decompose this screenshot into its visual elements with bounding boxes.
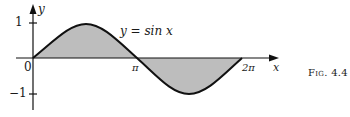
x-tick-label-pi: π <box>132 62 139 73</box>
x-axis-label: x <box>273 61 279 74</box>
y-axis-arrow-icon <box>30 4 37 14</box>
figure-caption: Fig. 4.4 <box>308 67 348 78</box>
y-tick-label-minus-1: −1 <box>9 86 27 100</box>
y-tick-label-1: 1 <box>15 15 23 29</box>
x-tick-label-2pi: 2π <box>242 62 255 73</box>
curve-label: y = sin x <box>120 24 173 38</box>
y-axis-label: y <box>38 2 45 16</box>
origin-label: 0 <box>24 60 32 74</box>
sine-plot <box>0 0 350 117</box>
